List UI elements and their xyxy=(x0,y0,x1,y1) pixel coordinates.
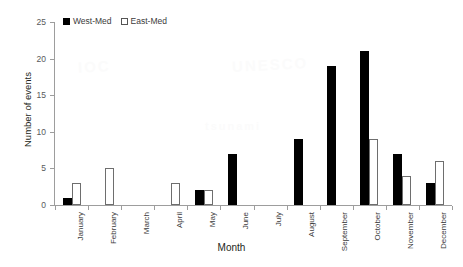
x-tick-label: July xyxy=(274,212,283,226)
bar-east-med-january xyxy=(72,183,81,205)
x-tick-mark xyxy=(154,206,155,210)
bar-west-med-august xyxy=(294,139,303,205)
legend-swatch-west-med-icon xyxy=(63,18,70,25)
x-tick-label: May xyxy=(208,212,217,227)
bar-west-med-june xyxy=(228,154,237,205)
bar-east-med-october xyxy=(369,139,378,205)
x-tick-mark xyxy=(254,206,255,210)
bar-west-med-october xyxy=(360,51,369,205)
x-tick-mark xyxy=(121,206,122,210)
x-tick-mark xyxy=(419,206,420,210)
bar-east-med-november xyxy=(402,176,411,205)
bar-west-med-september xyxy=(327,66,336,205)
x-tick-mark xyxy=(88,206,89,210)
bar-east-med-april xyxy=(171,183,180,205)
x-tick-mark xyxy=(386,206,387,210)
y-tick-mark xyxy=(50,95,54,96)
bar-east-med-february xyxy=(105,168,114,205)
bar-west-med-november xyxy=(393,154,402,205)
x-tick-mark xyxy=(320,206,321,210)
legend-entry-east-med: East-Med xyxy=(121,16,167,26)
legend-swatch-east-med-icon xyxy=(121,18,128,25)
x-tick-label: October xyxy=(373,212,382,240)
y-tick-mark xyxy=(50,168,54,169)
x-tick-mark xyxy=(220,206,221,210)
x-tick-label: April xyxy=(175,212,184,228)
y-tick-label: 20 xyxy=(20,55,46,64)
legend-label-east-med: East-Med xyxy=(131,16,167,26)
y-tick-mark xyxy=(50,22,54,23)
x-tick-label: June xyxy=(241,212,250,229)
x-tick-mark xyxy=(452,206,453,210)
x-tick-label: January xyxy=(76,212,85,240)
x-tick-mark xyxy=(353,206,354,210)
y-tick-label: 5 xyxy=(20,164,46,173)
x-axis-title: Month xyxy=(0,242,463,253)
bar-east-med-may xyxy=(204,190,213,205)
bar-west-med-december xyxy=(426,183,435,205)
x-tick-mark xyxy=(187,206,188,210)
x-tick-label: March xyxy=(142,212,151,234)
y-tick-label: 10 xyxy=(20,128,46,137)
plot-area xyxy=(55,22,452,205)
bar-west-med-may xyxy=(195,190,204,205)
y-tick-label: 0 xyxy=(20,201,46,210)
x-tick-mark xyxy=(287,206,288,210)
x-tick-label: February xyxy=(109,212,118,244)
bar-chart-figure: IOC UNESCO tsunami Number of events 0510… xyxy=(0,0,463,267)
x-tick-label: August xyxy=(307,212,316,237)
y-tick-mark xyxy=(50,132,54,133)
bar-west-med-january xyxy=(63,198,72,205)
legend-label-west-med: West-Med xyxy=(73,16,112,26)
x-tick-mark xyxy=(55,206,56,210)
y-tick-mark xyxy=(50,59,54,60)
bar-east-med-december xyxy=(435,161,444,205)
legend-entry-west-med: West-Med xyxy=(63,16,112,26)
chart-legend: West-Med East-Med xyxy=(63,16,167,26)
y-tick-label: 25 xyxy=(20,18,46,27)
y-tick-label: 15 xyxy=(20,91,46,100)
